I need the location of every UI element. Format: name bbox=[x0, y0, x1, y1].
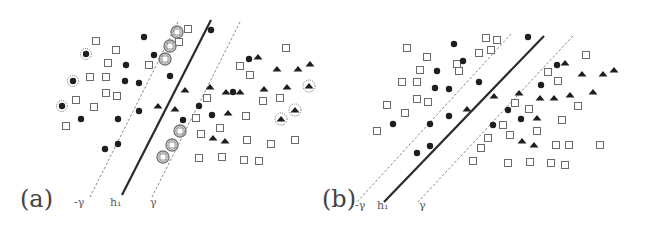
square-marker bbox=[87, 74, 94, 81]
dot-marker bbox=[115, 116, 121, 122]
dot-marker bbox=[432, 85, 438, 91]
square-marker bbox=[526, 106, 533, 113]
square-marker bbox=[534, 128, 541, 135]
line-label--gamma: -γ bbox=[355, 199, 366, 212]
square-marker bbox=[414, 79, 421, 86]
svm-margin-figure: -γγh₁(a) -γγh₁(b) bbox=[0, 0, 648, 228]
square-marker bbox=[103, 90, 110, 97]
triangle-marker bbox=[206, 84, 215, 90]
triangle-marker bbox=[550, 95, 559, 101]
square-marker bbox=[237, 63, 244, 70]
square-marker bbox=[93, 38, 100, 45]
triangle-marker bbox=[277, 116, 286, 122]
square-marker bbox=[113, 47, 120, 54]
line-label-gamma: γ bbox=[419, 199, 426, 212]
dot-marker bbox=[460, 58, 466, 64]
dot-marker bbox=[476, 79, 482, 85]
square-marker bbox=[545, 69, 552, 76]
square-marker bbox=[414, 96, 421, 103]
square-marker bbox=[575, 103, 582, 110]
square-marker bbox=[91, 104, 98, 111]
panel-b: -γγh₁(b) bbox=[322, 34, 619, 213]
dot-marker bbox=[136, 108, 142, 114]
square-marker bbox=[219, 154, 226, 161]
dot-marker bbox=[70, 78, 76, 84]
square-marker bbox=[424, 54, 431, 61]
triangle-marker bbox=[578, 71, 587, 77]
square-marker bbox=[73, 97, 80, 104]
square-marker bbox=[217, 125, 224, 132]
triangle-marker bbox=[305, 83, 314, 89]
square-marker bbox=[162, 56, 168, 62]
square-marker bbox=[485, 135, 492, 142]
dot-marker bbox=[427, 143, 433, 149]
square-marker bbox=[425, 99, 432, 106]
square-marker bbox=[454, 61, 461, 68]
square-marker bbox=[583, 52, 590, 59]
dot-marker bbox=[83, 51, 89, 57]
dot-marker bbox=[196, 103, 202, 109]
triangle-marker bbox=[530, 142, 539, 148]
dot-marker bbox=[102, 146, 108, 152]
triangle-marker bbox=[221, 138, 230, 144]
square-marker bbox=[160, 154, 166, 160]
square-marker bbox=[198, 131, 205, 138]
triangle-marker bbox=[490, 93, 499, 99]
dot-marker bbox=[230, 89, 236, 95]
triangle-marker bbox=[209, 135, 218, 141]
square-marker bbox=[193, 115, 200, 122]
square-marker bbox=[500, 122, 507, 129]
square-marker bbox=[470, 158, 477, 165]
triangle-marker bbox=[533, 115, 542, 121]
panel-label-a: (a) bbox=[20, 185, 53, 213]
dot-marker bbox=[123, 62, 129, 68]
margin-line--gamma bbox=[357, 34, 511, 202]
square-marker bbox=[292, 137, 299, 144]
square-marker bbox=[384, 102, 391, 109]
triangle-marker bbox=[236, 89, 245, 95]
dot-marker bbox=[427, 121, 433, 127]
triangle-marker bbox=[306, 61, 315, 67]
square-marker bbox=[176, 39, 183, 46]
square-marker bbox=[146, 62, 153, 69]
triangle-marker bbox=[254, 54, 263, 60]
dot-marker bbox=[180, 117, 186, 123]
triangle-marker bbox=[283, 84, 292, 90]
square-marker bbox=[559, 117, 566, 124]
triangle-marker bbox=[181, 87, 190, 93]
square-marker bbox=[476, 50, 483, 57]
square-marker bbox=[488, 47, 495, 54]
square-marker bbox=[256, 158, 263, 165]
square-marker bbox=[483, 35, 490, 42]
triangle-marker bbox=[561, 60, 570, 66]
square-marker bbox=[512, 100, 519, 107]
square-marker bbox=[243, 113, 250, 120]
line-label-gamma: γ bbox=[150, 196, 157, 209]
triangle-marker bbox=[294, 66, 303, 72]
square-marker bbox=[555, 78, 562, 85]
triangle-marker bbox=[171, 106, 180, 112]
dot-marker bbox=[78, 116, 84, 122]
triangle-marker bbox=[599, 71, 608, 77]
square-marker bbox=[277, 95, 284, 102]
dot-marker bbox=[167, 73, 173, 79]
square-marker bbox=[404, 45, 411, 52]
dot-marker bbox=[115, 141, 121, 147]
triangle-marker bbox=[463, 106, 472, 112]
dot-marker bbox=[538, 82, 544, 88]
dot-marker bbox=[554, 62, 560, 68]
dot-marker bbox=[122, 78, 128, 84]
square-marker bbox=[196, 155, 203, 162]
square-marker bbox=[260, 98, 267, 105]
dot-marker bbox=[446, 113, 452, 119]
square-marker bbox=[507, 132, 514, 139]
dot-marker bbox=[451, 41, 457, 47]
square-marker bbox=[247, 72, 254, 79]
line-label-h1: h₁ bbox=[377, 199, 389, 212]
panel-label-b: (b) bbox=[322, 185, 356, 213]
triangle-marker bbox=[273, 66, 282, 72]
square-marker bbox=[597, 142, 604, 149]
dot-marker bbox=[446, 86, 452, 92]
triangle-marker bbox=[291, 107, 300, 113]
square-marker bbox=[505, 160, 512, 167]
